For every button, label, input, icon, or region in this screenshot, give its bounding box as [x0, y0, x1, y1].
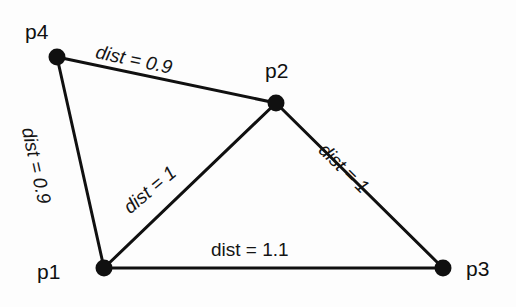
- edge-label-p1-p3: dist = 1.1: [211, 240, 289, 259]
- node-p3[interactable]: [435, 260, 452, 277]
- edge-layer: [57, 57, 443, 268]
- node-p1[interactable]: [96, 260, 113, 277]
- node-label-p1: p1: [37, 261, 60, 282]
- node-p4[interactable]: [49, 49, 66, 66]
- diagram-canvas: p4 p2 p1 p3 dist = 0.9 dist = 0.9 dist =…: [0, 0, 516, 307]
- node-p2[interactable]: [268, 95, 285, 112]
- node-label-p2: p2: [265, 60, 288, 81]
- graph-svg: [0, 0, 516, 307]
- edge-p4-p1: [57, 57, 104, 268]
- node-label-p4: p4: [25, 21, 48, 42]
- node-label-p3: p3: [466, 258, 489, 279]
